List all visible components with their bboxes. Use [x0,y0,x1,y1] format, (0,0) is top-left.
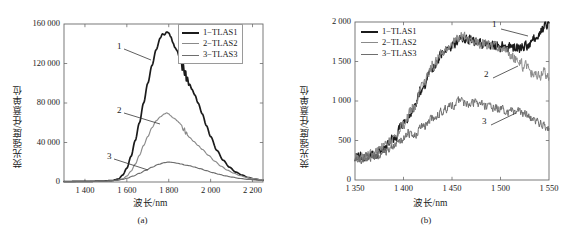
legend-swatch-tlas2 [182,43,199,44]
legend-b: 1−TLAS1 2−TLAS2 3−TLAS3 [361,26,417,60]
x-tick-label: 1 400 [378,184,430,193]
callout-label-1-a: 1 [117,42,122,51]
legend-label-tlas3: 3−TLAS3 [203,49,238,60]
legend-swatch-tlas3 [361,54,378,55]
chart-panel-a: 荧光强度/任意单位 波长/nm (a) 1−TLAS1 2−TLAS2 3−TL… [0,0,285,233]
callout-label-3-b: 3 [482,117,487,126]
legend-item-tlas3: 3−TLAS3 [182,49,238,60]
callout-label-3-a: 3 [107,152,112,161]
legend-swatch-tlas2 [361,42,378,43]
y-tick-label: 0 [2,177,60,186]
callout-label-1-b: 1 [492,20,497,29]
y-tick-label: 120 000 [2,59,60,68]
legend-item-tlas3: 3−TLAS3 [361,48,417,59]
y-tick-label: 2 000 [293,17,351,26]
y-tick-label: 160 000 [2,19,60,28]
legend-label-tlas3: 3−TLAS3 [382,48,417,59]
x-tick-label: 1 350 [329,184,381,193]
y-tick-label: 1 500 [293,57,351,66]
legend-item-tlas1: 1−TLAS1 [182,27,238,38]
y-tick-label: 40 000 [2,138,60,147]
y-tick-label: 500 [293,136,351,145]
figure-caption-a: (a) [0,215,285,225]
legend-item-tlas1: 1−TLAS1 [361,26,417,37]
callout-label-2-b: 2 [484,70,489,79]
legend-a: 1−TLAS1 2−TLAS2 3−TLAS3 [178,24,243,64]
legend-swatch-tlas3 [182,55,199,56]
figure-container: 荧光强度/任意单位 波长/nm (a) 1−TLAS1 2−TLAS2 3−TL… [0,0,567,233]
legend-label-tlas1: 1−TLAS1 [203,27,238,38]
figure-caption-b: (b) [285,215,567,225]
x-tick-label: 2 200 [227,186,279,195]
legend-item-tlas2: 2−TLAS2 [361,37,417,48]
x-axis-label-a: 波长/nm [100,195,200,209]
x-tick-label: 1 550 [523,184,567,193]
x-axis-label-b: 波长/nm [380,195,480,209]
legend-item-tlas2: 2−TLAS2 [182,38,238,49]
x-tick-label: 1 500 [475,184,527,193]
y-tick-label: 0 [293,175,351,184]
y-tick-label: 1 000 [293,96,351,105]
x-tick-label: 1 450 [426,184,478,193]
legend-label-tlas1: 1−TLAS1 [382,26,417,37]
callout-label-2-a: 2 [117,106,122,115]
chart-panel-b: 荧光强度/任意单位 波长/nm (b) 1−TLAS1 2−TLAS2 3−TL… [285,0,567,233]
y-tick-label: 80 000 [2,98,60,107]
legend-swatch-tlas1 [182,32,199,34]
legend-label-tlas2: 2−TLAS2 [382,37,417,48]
legend-label-tlas2: 2−TLAS2 [203,38,238,49]
legend-swatch-tlas1 [361,31,378,33]
